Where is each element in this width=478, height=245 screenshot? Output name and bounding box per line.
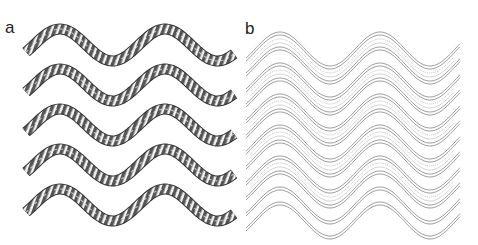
helix-ribbon — [26, 69, 234, 101]
helix-ribbon — [26, 109, 234, 141]
outlined-tube — [246, 125, 460, 177]
figure-canvas — [0, 0, 478, 245]
helix-ribbon — [26, 29, 234, 61]
outlined-tube — [246, 32, 460, 84]
outlined-tube — [246, 94, 460, 146]
outlined-tube — [246, 187, 460, 239]
helix-ribbon — [26, 189, 234, 221]
outlined-tube — [246, 63, 460, 115]
outlined-tube — [246, 156, 460, 208]
panel-a-ribbons — [26, 29, 234, 221]
panel-b-tubes — [246, 32, 460, 239]
helix-ribbon — [26, 149, 234, 181]
